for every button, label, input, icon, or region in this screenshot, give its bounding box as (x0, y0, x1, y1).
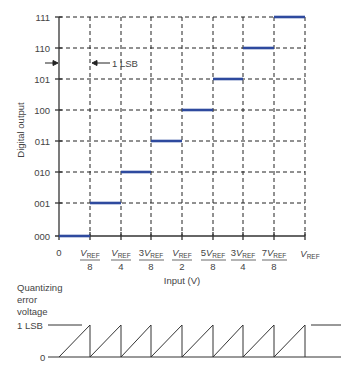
x-tick-fraction: 7VREF 8 (262, 247, 287, 272)
x-tick-fraction: 3VREF 4 (231, 247, 256, 272)
svg-text:2: 2 (179, 261, 184, 272)
x-tick-fraction: 5VREF 8 (201, 247, 226, 272)
svg-text:3VREF: 3VREF (139, 247, 164, 259)
y-tick-label: 100 (34, 105, 50, 116)
y-tick-label: 010 (34, 167, 50, 178)
svg-text:VREF: VREF (300, 248, 319, 260)
error-tick-zero: 0 (40, 352, 45, 363)
x-tick-vref: VREF (300, 248, 319, 260)
adc-chart: 1 LSB 111 110 101 100 011 010 001 000 Di… (0, 0, 347, 383)
x-axis-title: Input (V) (164, 275, 200, 286)
svg-text:3VREF: 3VREF (231, 247, 256, 259)
svg-text:VREF: VREF (172, 247, 191, 259)
lsb-annotation: 1 LSB (112, 58, 138, 69)
x-tick-fractions: VREF 8 VREF 4 3VREF 8 VREF 2 5VREF 8 (80, 247, 320, 272)
x-tick-fraction: VREF 4 (111, 247, 131, 272)
svg-text:error: error (17, 294, 37, 305)
svg-text:Quantizing: Quantizing (17, 282, 62, 293)
y-tick-label: 011 (35, 136, 50, 147)
x-tick-fraction: 3VREF 8 (139, 247, 164, 272)
svg-text:voltage: voltage (17, 306, 48, 317)
svg-text:7VREF: 7VREF (262, 247, 287, 259)
y-tick-label: 000 (34, 231, 50, 242)
y-tick-label: 101 (34, 74, 50, 85)
svg-text:8: 8 (271, 261, 276, 272)
error-chart-title: Quantizing error voltage (17, 282, 62, 317)
y-tick-label: 001 (34, 198, 50, 209)
x-tick-fraction: VREF 2 (172, 247, 192, 272)
error-series (48, 325, 341, 357)
svg-text:8: 8 (148, 261, 153, 272)
y-tick-label: 110 (35, 43, 50, 54)
error-tick-1lsb: 1 LSB (17, 320, 43, 331)
y-tick-label: 111 (36, 12, 50, 23)
svg-text:VREF: VREF (80, 247, 99, 259)
lsb-arrows (45, 61, 110, 66)
y-tick-labels: 111 110 101 100 011 010 001 000 (34, 12, 50, 242)
svg-text:8: 8 (210, 261, 215, 272)
x-tick-fraction: VREF 8 (80, 247, 100, 272)
axes (55, 17, 305, 240)
svg-text:5VREF: 5VREF (201, 247, 226, 259)
svg-text:4: 4 (240, 261, 245, 272)
svg-text:4: 4 (118, 261, 123, 272)
y-axis-title: Digital output (15, 102, 26, 158)
svg-text:VREF: VREF (111, 247, 130, 259)
x-tick-label-zero: 0 (56, 247, 61, 258)
svg-text:8: 8 (87, 261, 92, 272)
